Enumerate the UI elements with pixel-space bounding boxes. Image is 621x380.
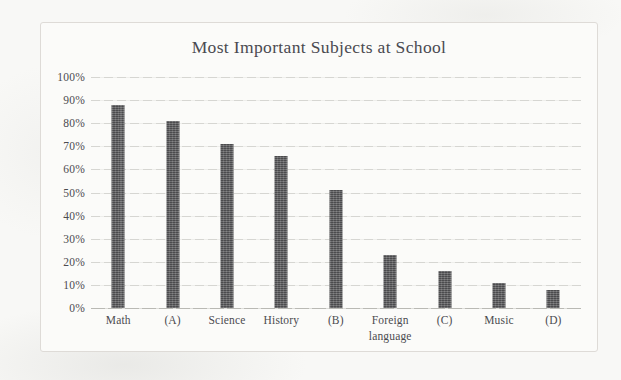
bar-slot xyxy=(363,77,417,308)
x-tick-label: Science xyxy=(200,312,254,328)
y-tick-label: 70% xyxy=(63,140,85,152)
bar-slot xyxy=(417,77,471,308)
x-tick-label: History xyxy=(254,312,308,328)
bar[interactable] xyxy=(329,190,342,308)
bars-group xyxy=(91,77,581,308)
x-tick-label: Music xyxy=(472,312,526,328)
bar-slot xyxy=(145,77,199,308)
y-tick-label: 60% xyxy=(63,163,85,175)
bar-slot xyxy=(309,77,363,308)
x-tick-label: Foreignlanguage xyxy=(363,312,417,344)
x-tick-label-line: Science xyxy=(200,312,254,328)
y-tick-label: 100% xyxy=(57,71,85,83)
y-tick-label: 0% xyxy=(69,302,85,314)
bar-slot xyxy=(91,77,145,308)
x-tick-label-line: (A) xyxy=(145,312,199,328)
y-tick-label: 30% xyxy=(63,233,85,245)
gridline xyxy=(91,308,581,309)
x-tick-label-line: language xyxy=(363,328,417,344)
bar[interactable] xyxy=(220,144,233,308)
bar[interactable] xyxy=(166,121,179,308)
x-tick-label: (C) xyxy=(417,312,471,328)
chart-container: Most Important Subjects at School 0%10%2… xyxy=(40,22,598,352)
bar[interactable] xyxy=(492,283,505,308)
bar[interactable] xyxy=(384,255,397,308)
bar-slot xyxy=(200,77,254,308)
y-tick-label: 40% xyxy=(63,210,85,222)
bar[interactable] xyxy=(547,290,560,308)
x-tick-label-line: (D) xyxy=(526,312,580,328)
y-tick-label: 90% xyxy=(63,94,85,106)
x-tick-label-line: Math xyxy=(91,312,145,328)
y-tick-label: 80% xyxy=(63,117,85,129)
x-tick-label: (A) xyxy=(145,312,199,328)
x-tick-label: (D) xyxy=(526,312,580,328)
bar[interactable] xyxy=(438,271,451,308)
bar-slot xyxy=(472,77,526,308)
y-tick-label: 50% xyxy=(63,187,85,199)
y-tick-label: 10% xyxy=(63,279,85,291)
x-tick-label: Math xyxy=(91,312,145,328)
x-tick-label-line: Foreign xyxy=(363,312,417,328)
bar-slot xyxy=(526,77,580,308)
x-tick-label-line: (C) xyxy=(417,312,471,328)
bar-slot xyxy=(254,77,308,308)
x-tick-label-line: (B) xyxy=(309,312,363,328)
x-tick-label-line: Music xyxy=(472,312,526,328)
y-tick-label: 20% xyxy=(63,256,85,268)
chart-title: Most Important Subjects at School xyxy=(41,37,597,58)
x-axis-tick-labels: Math(A)ScienceHistory(B)Foreignlanguage(… xyxy=(91,312,581,356)
bar[interactable] xyxy=(275,156,288,308)
x-tick-label: (B) xyxy=(309,312,363,328)
bar[interactable] xyxy=(112,105,125,308)
plot-area: 0%10%20%30%40%50%60%70%80%90%100% xyxy=(91,77,581,308)
x-tick-label-line: History xyxy=(254,312,308,328)
